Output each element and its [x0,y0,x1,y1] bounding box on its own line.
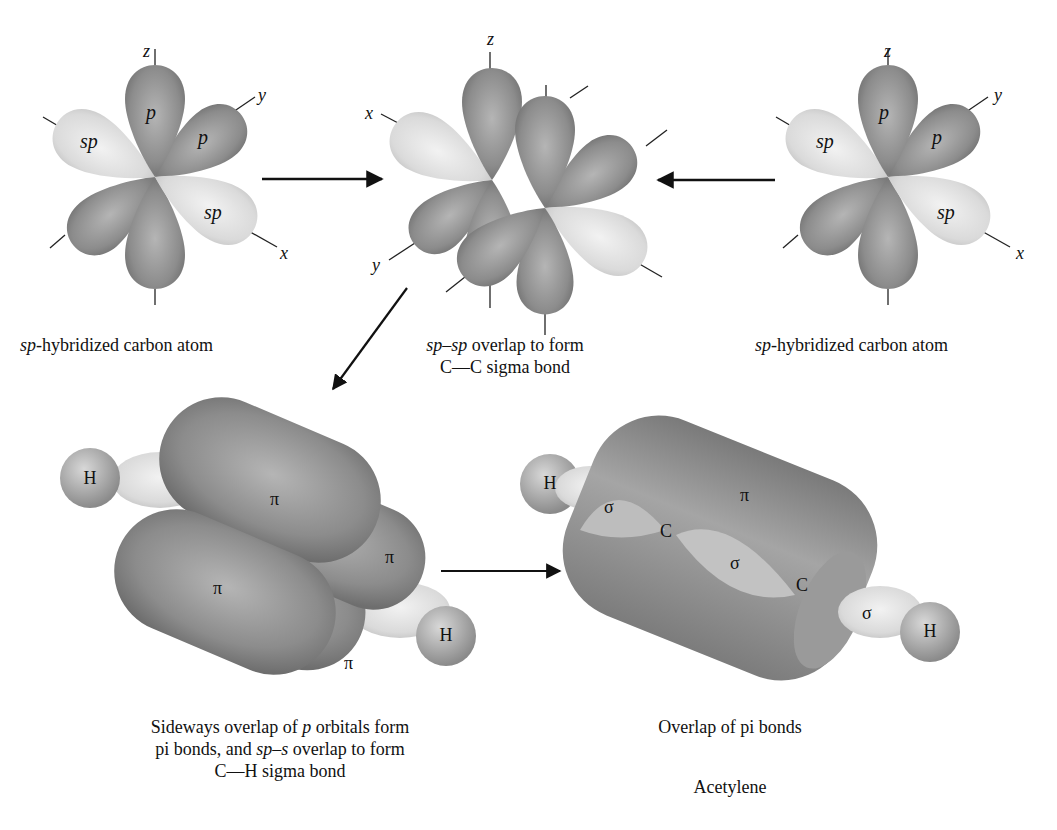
sigma-label-center: σ [730,552,740,574]
axis-label-z-right: z [884,40,891,62]
orbital-label-sp-upper-left: sp [80,130,98,152]
caption-text: overlap to form [467,335,583,355]
axis-label-x-left: x [280,242,288,264]
orbital-label-p-top-right: p [879,101,889,123]
caption-pi-bonds: Sideways overlap of p orbitals form pi b… [100,716,460,782]
axis-label-x-right: x [1016,242,1024,264]
caption-overlap-pi: Overlap of pi bonds [620,716,840,738]
pi-label-front: π [213,577,222,599]
orbital-diagram [0,0,1057,830]
orbital-label-p-top-left: p [146,101,156,123]
axis-label-y-left: y [258,84,266,106]
orbital-label-sp-lower-left: sp [204,201,222,223]
axis-label-z-center: z [487,28,494,50]
pi-label-bottom: π [344,652,353,674]
orbital-label-sp-upper-right: sp [816,130,834,152]
caption-italic: sp–s [256,739,288,759]
carbon-label-right: C [796,574,808,596]
pi-label-right: π [385,546,394,568]
atom-label-h-right-acetylene: H [912,620,948,642]
sp-sp-overlap-orbitals [379,52,667,335]
caption-italic: p [302,717,311,737]
caption-left-carbon: sp-hybridized carbon atom [20,334,300,356]
caption-text: -hybridized carbon atom [771,335,948,355]
right-sp-carbon-orbitals [775,49,1010,305]
axis-label-y-center: y [372,254,380,276]
left-sp-carbon-orbitals [42,49,277,305]
caption-line3: C—H sigma bond [100,760,460,782]
caption-center-overlap: sp–sp overlap to form C—C sigma bond [380,334,630,378]
axis-label-y-right: y [994,84,1002,106]
pi-bond-overlap-model [60,378,476,694]
orbital-label-p-side-left: p [198,126,208,148]
acetylene-model [520,394,960,701]
atom-label-h-right-pi: H [428,624,464,646]
caption-text: -hybridized carbon atom [36,335,213,355]
caption-right-carbon: sp-hybridized carbon atom [755,334,1035,356]
caption-text: pi bonds, and [155,739,256,759]
carbon-label-left: C [660,520,672,542]
pi-label-top: π [270,488,279,510]
orbital-label-sp-lower-right: sp [937,201,955,223]
orbital-label-p-side-right: p [932,126,942,148]
sigma-label-right: σ [862,602,872,624]
caption-text: Sideways overlap of [151,717,302,737]
caption-line2: C—C sigma bond [380,356,630,378]
caption-italic: sp–sp [426,335,467,355]
caption-acetylene: Acetylene [620,776,840,798]
atom-label-h-left-pi: H [72,467,108,489]
sigma-label-left: σ [604,496,614,518]
axis-label-z-left: z [143,40,150,62]
caption-italic: sp [755,335,771,355]
caption-text: orbitals form [311,717,409,737]
caption-text: overlap to form [288,739,404,759]
atom-label-h-left-acetylene: H [532,472,568,494]
caption-italic: sp [20,335,36,355]
axis-label-x-center: x [365,102,373,124]
pi-label-acetylene: π [740,484,749,506]
